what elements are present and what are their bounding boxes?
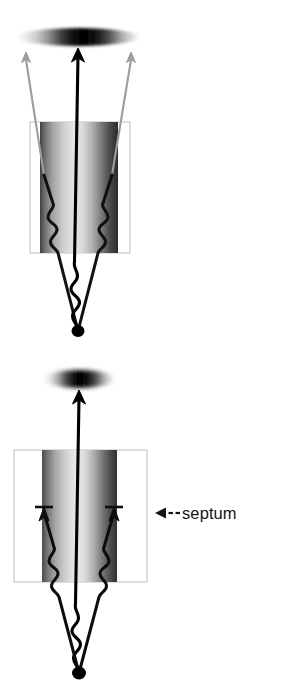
point-source-bottom (72, 667, 86, 680)
figure-background (0, 0, 282, 689)
detector-ellipse-bottom (43, 370, 115, 388)
detector-ellipse-top (16, 28, 140, 46)
point-source-top (72, 325, 85, 337)
septum-label: septum (182, 505, 237, 522)
collimator-septal-penetration-figure (0, 0, 282, 689)
bore-gradient-top (40, 122, 118, 253)
bore-gradient-bottom (42, 450, 117, 582)
